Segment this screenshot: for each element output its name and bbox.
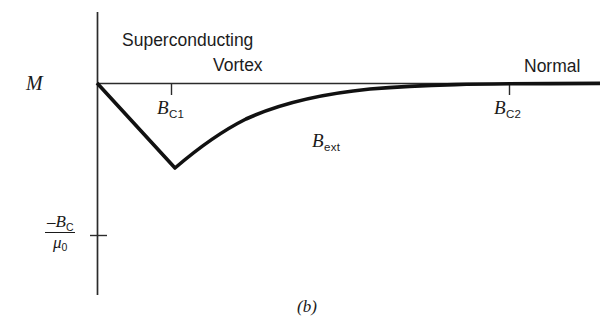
tick-label-bc1: BC1 bbox=[157, 98, 184, 117]
y-tick-label-critical-field: –BC μ0 bbox=[45, 213, 75, 252]
tick-label-bc2: BC2 bbox=[494, 98, 521, 117]
minus-sign: – bbox=[47, 212, 56, 231]
y-tick-numerator-subscript: C bbox=[66, 221, 74, 233]
region-label-normal: Normal bbox=[524, 58, 580, 76]
plot-canvas bbox=[0, 0, 614, 334]
magnetization-curve bbox=[97, 83, 600, 168]
tick-label-bc2-subscript: C2 bbox=[506, 108, 521, 120]
figure-magnetization-type-ii-superconductor: M Superconducting Vortex Normal BC1 BC2 … bbox=[0, 0, 614, 334]
x-axis-label-symbol: B bbox=[312, 130, 324, 151]
tick-label-bc1-symbol: B bbox=[157, 97, 169, 118]
y-tick-numerator-symbol: B bbox=[56, 212, 66, 231]
region-label-superconducting: Superconducting bbox=[122, 32, 253, 50]
y-tick-denominator-symbol: μ bbox=[53, 233, 62, 252]
y-tick-label-denominator: μ0 bbox=[45, 232, 75, 252]
y-tick-denominator-subscript: 0 bbox=[62, 241, 68, 253]
region-label-vortex: Vortex bbox=[213, 57, 263, 75]
tick-label-bc1-subscript: C1 bbox=[169, 108, 184, 120]
x-axis-label-subscript: ext bbox=[324, 141, 340, 153]
y-axis-label: M bbox=[26, 73, 43, 93]
tick-label-bc2-symbol: B bbox=[494, 97, 506, 118]
x-axis-label: Bext bbox=[312, 131, 340, 150]
y-tick-label-numerator: –BC bbox=[45, 213, 75, 232]
figure-caption: (b) bbox=[297, 298, 317, 315]
